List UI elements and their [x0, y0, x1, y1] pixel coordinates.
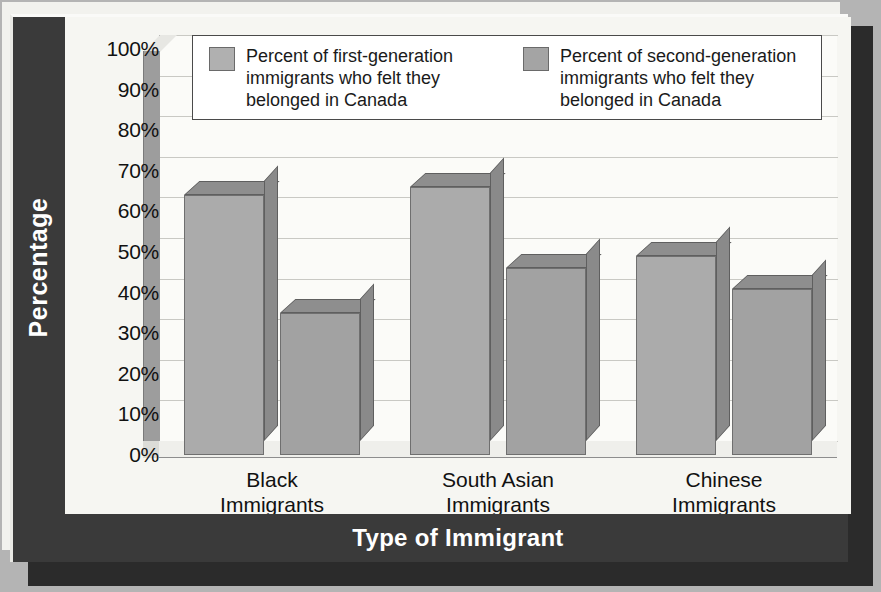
x-axis-title: Type of Immigrant	[65, 514, 851, 562]
bar-front-face	[506, 268, 586, 455]
bar-front-face	[636, 256, 716, 455]
y-axis-tick-label: 40%	[71, 281, 159, 305]
legend-line: Percent of second-generation	[560, 45, 796, 67]
bar	[410, 187, 490, 455]
legend-label-second-generation: Percent of second-generation immigrants …	[560, 45, 796, 111]
bar-side-face	[586, 239, 600, 441]
x-axis-title-text: Type of Immigrant	[352, 524, 563, 552]
bar-side-face	[812, 259, 826, 441]
category-label-line: Immigrants	[385, 492, 611, 514]
bar-front-face	[410, 187, 490, 455]
y-axis-tick-label: 100%	[71, 37, 159, 61]
category-label-line: Black	[159, 467, 385, 492]
plot-canvas: 100%90%80%70%60%50%40%30%20%10%0% BlackI…	[65, 17, 851, 514]
bar-side-face	[360, 283, 374, 441]
chart-legend: Percent of first-generation immigrants w…	[192, 35, 822, 120]
y-axis-tick-label: 70%	[71, 159, 159, 183]
legend-item: Percent of second-generation immigrants …	[507, 45, 821, 111]
y-axis-tick-label: 90%	[71, 78, 159, 102]
chart-frame: Percentage Type of Immigrant 100%90%80%7…	[10, 14, 848, 562]
legend-label-first-generation: Percent of first-generation immigrants w…	[246, 45, 453, 111]
y-axis-tick-label: 0%	[71, 443, 159, 467]
y-axis-tick-label: 50%	[71, 240, 159, 264]
legend-line: belonged in Canada	[246, 89, 453, 111]
bar-side-face	[264, 166, 278, 441]
legend-line: belonged in Canada	[560, 89, 796, 111]
bar	[732, 289, 812, 455]
bar-side-face	[716, 226, 730, 440]
bar-front-face	[280, 313, 360, 455]
bar-front-face	[184, 195, 264, 455]
x-axis-category-label: ChineseImmigrants	[611, 467, 837, 514]
y-axis-tick-label: 20%	[71, 362, 159, 386]
legend-line: immigrants who felt they	[560, 67, 796, 89]
y-axis-title: Percentage	[13, 17, 65, 517]
y-axis-tick-label: 30%	[71, 321, 159, 345]
chart-figure: Percentage Type of Immigrant 100%90%80%7…	[0, 0, 881, 592]
legend-line: immigrants who felt they	[246, 67, 453, 89]
bar	[184, 195, 264, 455]
bar-front-face	[732, 289, 812, 455]
x-axis-category-label: South AsianImmigrants	[385, 467, 611, 514]
legend-item: Percent of first-generation immigrants w…	[193, 45, 507, 111]
legend-swatch-second-generation	[523, 47, 549, 71]
category-label-line: Chinese	[611, 467, 837, 492]
bar	[636, 256, 716, 455]
y-axis-tick-label: 80%	[71, 118, 159, 142]
y-axis-tick-label: 10%	[71, 402, 159, 426]
category-label-line: South Asian	[385, 467, 611, 492]
legend-line: Percent of first-generation	[246, 45, 453, 67]
bar	[280, 313, 360, 455]
legend-swatch-first-generation	[209, 47, 235, 71]
y-axis-ticks: 100%90%80%70%60%50%40%30%20%10%0%	[65, 17, 159, 514]
x-axis-category-label: BlackImmigrants	[159, 467, 385, 514]
category-label-line: Immigrants	[159, 492, 385, 514]
y-axis-title-text: Percentage	[25, 197, 54, 337]
y-axis-tick-label: 60%	[71, 199, 159, 223]
category-label-line: Immigrants	[611, 492, 837, 514]
bar	[506, 268, 586, 455]
bar-side-face	[490, 157, 504, 441]
gridline	[160, 157, 838, 158]
